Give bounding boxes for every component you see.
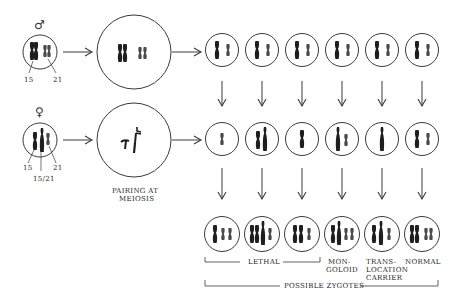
egg-cell-normal [406, 123, 439, 156]
zygote-normal [405, 217, 440, 252]
egg-cell-15-and-15-21 [246, 123, 279, 156]
zygote-translocation-carrier [365, 217, 400, 252]
egg-row [206, 123, 439, 156]
sperm-cell [206, 34, 239, 67]
male-meiosis-cell [97, 15, 171, 89]
translocation-label-line3: CARRIER [366, 274, 402, 282]
mongoloid-label-line2: GOLOID [326, 266, 358, 274]
arrows-row-1 [222, 81, 422, 106]
sperm-row [206, 34, 439, 67]
female-label-15-21: 15/21 [33, 175, 55, 183]
sperm-cell [246, 34, 279, 67]
male-symbol: ♂ [34, 19, 45, 31]
translocation-label-line1: TRANS- [366, 258, 396, 266]
zygote-mongoloid [325, 217, 360, 252]
sperm-cell [326, 34, 359, 67]
male-label-15: 15 [24, 76, 34, 84]
male-label-21: 21 [53, 76, 63, 84]
possible-zygotes-label: POSSIBLE ZYGOTES [284, 282, 364, 290]
male-parent-cell [23, 35, 57, 73]
normal-label: NORMAL [405, 258, 441, 266]
zygote-lethal-1 [205, 217, 240, 252]
egg-cell-15-only [286, 123, 319, 156]
zygote-lethal-2 [245, 217, 280, 252]
translocation-label-line2: LOCATION [366, 266, 408, 274]
arrows-row-2 [222, 168, 422, 199]
egg-cell-15-21-and-21 [326, 123, 359, 156]
pairing-label-line1: PAIRING AT [112, 187, 158, 195]
egg-cell-21-only [206, 123, 239, 156]
zygote-row [205, 217, 440, 252]
mongoloid-label-line1: MON- [328, 258, 351, 266]
sperm-cell [286, 34, 319, 67]
zygote-lethal-3 [285, 217, 320, 252]
female-label-21: 21 [53, 164, 63, 172]
egg-cell-15-21-only [366, 123, 399, 156]
sperm-cell [406, 34, 439, 67]
sperm-cell [366, 34, 399, 67]
female-label-15: 15 [23, 164, 33, 172]
pairing-label-line2: MEIOSIS [119, 195, 154, 203]
female-meiosis-cell [97, 103, 171, 177]
lethal-label: LETHAL [248, 258, 280, 266]
female-symbol: ♀ [35, 106, 44, 118]
